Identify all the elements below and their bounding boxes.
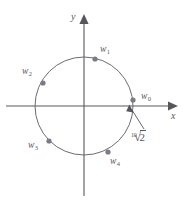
radius-radical-label: 10√2 — [131, 130, 146, 143]
point-label-w0: w0 — [141, 92, 151, 102]
y-axis-label: y — [71, 12, 75, 22]
point-label-w3: w3 — [28, 141, 38, 151]
point-label-w4: w4 — [110, 157, 120, 167]
point-label-w2-subscript: 2 — [28, 70, 32, 77]
point-label-w3-subscript: 3 — [34, 144, 38, 151]
point-label-w4-subscript: 4 — [116, 160, 120, 167]
x-axis — [6, 101, 178, 110]
root-of-unity-figure: y x w0 w1 w2 w3 w4 10√2 — [0, 0, 188, 201]
figure-canvas — [0, 0, 188, 201]
point-label-w0-subscript: 0 — [147, 95, 151, 102]
point-w0 — [130, 97, 135, 102]
x-axis-label: x — [171, 111, 175, 121]
point-label-w1: w1 — [100, 45, 110, 55]
y-axis — [79, 14, 88, 196]
point-w2 — [40, 80, 45, 85]
point-label-w2: w2 — [22, 67, 32, 77]
point-w1 — [92, 56, 97, 61]
y-axis-arrowhead-icon — [79, 14, 88, 24]
point-label-w1-subscript: 1 — [106, 48, 110, 55]
radius-leader-line — [132, 110, 144, 129]
point-w4 — [105, 149, 110, 154]
point-w3 — [46, 138, 51, 143]
radical-radicand: 2 — [140, 130, 147, 143]
